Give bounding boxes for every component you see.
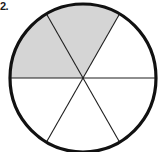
item-number-label: 2.	[0, 1, 9, 14]
fraction-circle-figure: 2.	[0, 0, 160, 152]
fraction-circle-diagram	[0, 0, 160, 152]
